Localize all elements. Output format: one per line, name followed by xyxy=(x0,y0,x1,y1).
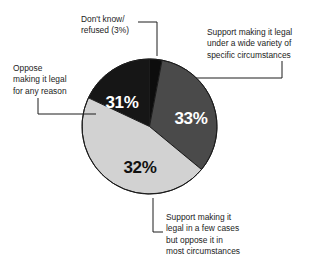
callout-label-wide: Support making it legal under a wide var… xyxy=(207,27,292,61)
callout-fewcase-line4: most circumstances xyxy=(166,246,240,257)
callout-wide-line1: Support making it legal xyxy=(207,27,292,38)
callout-label-oppose: Oppose making it legal for any reason xyxy=(13,63,67,97)
callout-fewcase-line2: legal in a few cases xyxy=(166,223,240,234)
callout-oppose-line3: for any reason xyxy=(13,86,67,97)
callout-oppose-line1: Oppose xyxy=(13,63,67,74)
callout-label-fewcase: Support making it legal in a few cases b… xyxy=(166,212,240,258)
leader-line-fewcase xyxy=(153,198,163,232)
pie-chart: 31% 33% 32% Don't know/ refused (3%) Sup… xyxy=(0,0,312,268)
callout-fewcase-line3: but oppose it in xyxy=(166,235,240,246)
callout-dontknow-line2: refused (3%) xyxy=(81,25,129,36)
leader-line-wide xyxy=(196,61,282,78)
callout-dontknow-line1: Don't know/ xyxy=(81,14,129,25)
callout-wide-line3: specific circumstances xyxy=(207,50,292,61)
callout-wide-line2: under a wide variety of xyxy=(207,38,292,49)
callout-fewcase-line1: Support making it xyxy=(166,212,240,223)
callout-label-dontknow: Don't know/ refused (3%) xyxy=(81,14,129,37)
callout-oppose-line2: making it legal xyxy=(13,74,67,85)
leader-line-dontknow xyxy=(138,22,157,56)
